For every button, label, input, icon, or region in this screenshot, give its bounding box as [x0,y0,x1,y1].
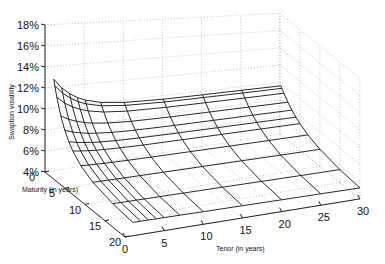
surface-line [93,149,320,182]
tenor-tick [280,208,282,212]
z-tick [41,171,45,172]
z-tick [41,129,45,130]
grid-line [280,31,360,96]
z-tick [41,87,45,88]
tenor-tick-label: 0 [122,243,128,255]
tenor-tick-label: 10 [200,230,212,242]
tenor-tick [162,227,164,231]
tenor-tick-label: 15 [239,224,251,236]
tenor-tick-label: 5 [161,237,167,249]
maturity-tick-label: 0 [29,171,35,183]
z-tick-label: 10% [17,103,39,115]
z-tick-label: 12% [17,82,39,94]
tenor-tick-label: 20 [279,218,291,230]
surface-line [124,102,203,211]
z-tick [41,45,45,46]
maturity-tick-label: 15 [89,220,101,232]
zlabel: Swaption volatility [8,84,16,140]
z-tick-label: 6% [23,145,39,157]
tenor-tick [319,201,321,205]
z-tick [41,108,45,109]
surface-line [54,79,281,102]
maturity-tick [45,171,49,172]
maturity-tick-label: 20 [109,236,121,248]
maturity-tick [85,204,89,205]
grid-line [280,65,360,130]
maturity-tick-label: 10 [69,204,81,216]
tenor-tick [201,220,203,224]
z-tick-label: 16% [17,40,39,52]
z-tick-label: 8% [23,124,39,136]
surface-plot: 4%6%8%10%12%14%16%18%0510152005101520253… [0,0,385,264]
surface-line [73,124,300,151]
surface-line [55,86,282,106]
ylabel: Maturity (in years) [22,186,78,194]
tenor-tick-label: 25 [318,211,330,223]
tenor-tick [240,214,242,218]
z-tick [41,66,45,67]
grid-line [105,183,340,221]
z-tick [41,150,45,151]
tenor-tick-label: 30 [357,205,369,217]
z-tick [41,24,45,25]
z-tick-label: 18% [17,19,39,31]
maturity-tick [105,220,109,221]
xlabel: Tenor (in years) [216,245,265,253]
z-tick-label: 14% [17,61,39,73]
